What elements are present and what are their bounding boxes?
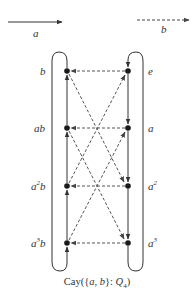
node-a [125,125,131,131]
node-a3b [64,240,70,246]
edge-b-to-a3b-loop [52,52,67,271]
edge-ab-to-a3 [69,131,124,239]
label-a2b: a2b [31,179,46,192]
label-a2: a2 [148,179,158,192]
node-ab [64,125,70,131]
label-a: a [148,122,154,134]
cayley-graph-diagram: a b e a [0,0,193,302]
node-a2 [125,183,131,189]
node-e [125,68,131,74]
label-a3: a3 [148,236,158,249]
legend-b: b [137,20,189,35]
node-a2b [64,183,70,189]
legend-a-label: a [33,27,39,39]
legend-a: a [8,22,62,39]
legend-b-label: b [161,23,167,35]
edge-a2b-to-e [69,75,125,183]
label-ab: ab [34,122,46,134]
edge-a3-to-e-loop [128,52,143,271]
label-a3b: a3b [31,236,46,249]
nodes [64,68,131,246]
a-edges [52,52,143,271]
label-b: b [40,65,46,77]
caption: Cay({a, b}: Q4) [64,276,131,290]
label-e: e [148,65,153,77]
b-edges [69,71,125,243]
node-b [64,68,70,74]
node-a3 [125,240,131,246]
